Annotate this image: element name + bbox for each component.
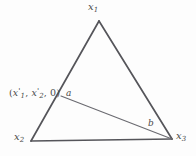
edge-x2-x3 <box>31 139 172 141</box>
interior-point-label: (x'1, x'2, 0) <box>9 87 60 100</box>
angle-label-b: b <box>148 119 154 128</box>
point-label-close: ) <box>56 87 60 98</box>
vertex-label-x3: x3 <box>176 131 186 143</box>
edge-x1-x2 <box>31 21 99 141</box>
angle-label-a: a <box>66 89 71 98</box>
vertex-label-x1-sub: 1 <box>94 6 98 14</box>
vertex-label-x1: x1 <box>88 2 98 14</box>
vertex-label-x2: x2 <box>14 132 24 144</box>
cevian-line-group <box>61 96 172 139</box>
geometry-figure: x1 x2 x3 a b (x'1, x'2, 0) <box>0 0 196 156</box>
edge-x1-x3 <box>99 21 172 139</box>
vertex-label-x2-sub: 2 <box>20 136 24 144</box>
cevian-xprime-x3 <box>61 96 172 139</box>
vertex-label-x3-sub: 3 <box>182 135 186 143</box>
triangle-diagram-svg <box>0 0 196 156</box>
